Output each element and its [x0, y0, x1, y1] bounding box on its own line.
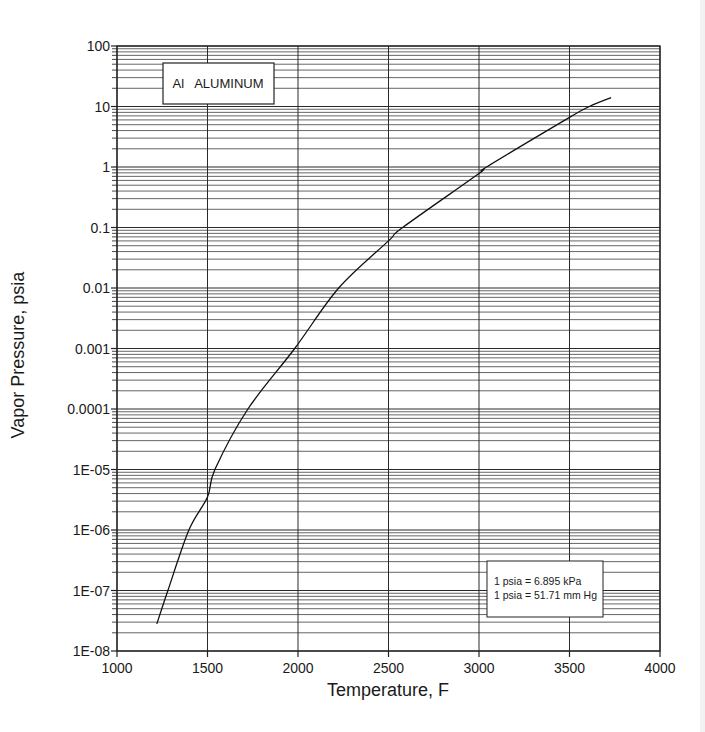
y-tick-label: 1 [102, 159, 110, 175]
x-tick-label: 1500 [192, 660, 223, 676]
note-line-mmhg: 1 psia = 51.71 mm Hg [494, 589, 597, 601]
y-tick-label: 1E-06 [73, 522, 111, 538]
y-axis-title: Vapor Pressure, psia [8, 271, 28, 439]
y-tick-label: 10 [94, 99, 110, 115]
x-tick-label: 2000 [282, 660, 313, 676]
x-tick-label: 1000 [101, 660, 132, 676]
title-box-text: Al ALUMINUM [172, 76, 263, 91]
major-gridlines [117, 46, 660, 651]
x-tick-label: 3000 [463, 660, 494, 676]
x-tick-label: 2500 [373, 660, 404, 676]
title-box: Al ALUMINUM [163, 63, 274, 104]
y-tick-label: 0.1 [91, 220, 111, 236]
y-tick-label: 1E-05 [73, 462, 111, 478]
x-axis-title: Temperature, F [327, 680, 449, 700]
y-tick-label: 1E-07 [73, 583, 111, 599]
y-tick-label: 0.0001 [67, 401, 110, 417]
note-line-kpa: 1 psia = 6.895 kPa [494, 575, 581, 587]
x-tick-label: 4000 [644, 660, 675, 676]
unit-conversion-note: 1 psia = 6.895 kPa 1 psia = 51.71 mm Hg [487, 561, 603, 617]
y-tick-label: 1E-08 [73, 643, 111, 659]
vapor-pressure-chart: 1E-081E-071E-061E-050.00010.0010.010.111… [0, 0, 705, 732]
y-tick-label: 100 [87, 38, 111, 54]
x-axis-tick-labels: 1000150020002500300035004000 [101, 660, 675, 676]
y-tick-label: 0.01 [83, 280, 110, 296]
y-tick-label: 0.001 [75, 341, 110, 357]
x-tick-label: 3500 [554, 660, 585, 676]
y-axis-tick-labels: 1E-081E-071E-061E-050.00010.0010.010.111… [67, 38, 110, 659]
